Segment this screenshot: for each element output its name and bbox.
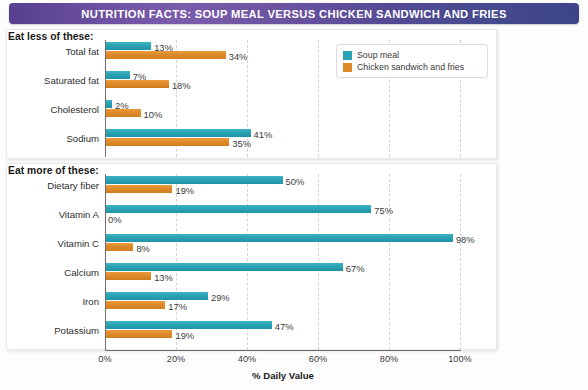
x-axis-tick-40pct: 40% (238, 354, 256, 364)
x-axis-title: % Daily Value (105, 370, 461, 381)
y-axis-line-eat-more (105, 174, 106, 350)
category-label: Cholesterol (50, 105, 99, 115)
bar-chicken-sandwich (105, 138, 229, 146)
chart-row: Dietary fiber50%19% (105, 176, 460, 205)
y-axis-line-eat-less (105, 40, 106, 157)
bar-value-label: 29% (211, 293, 230, 302)
chart-row: Sodium41%35% (105, 129, 460, 158)
bar-soup-meal (105, 292, 208, 300)
category-label: Dietary fiber (47, 181, 99, 191)
x-axis-tick-60pct: 60% (309, 354, 327, 364)
nutrition-facts-chart: NUTRITION FACTS: SOUP MEAL VERSUS CHICKE… (0, 0, 588, 390)
bar-soup-meal (105, 100, 112, 108)
bar-value-label: 67% (346, 264, 365, 273)
bar-value-label: 41% (254, 130, 273, 139)
bar-value-label: 13% (154, 273, 173, 282)
category-label: Total fat (65, 47, 99, 57)
legend-swatch-orange (343, 63, 352, 72)
x-axis-line (105, 350, 461, 351)
chart-row: Calcium67%13% (105, 263, 460, 292)
bar-soup-meal (105, 71, 130, 79)
bar-chicken-sandwich (105, 301, 165, 309)
category-label: Vitamin C (58, 239, 99, 249)
bar-value-label: 10% (144, 110, 163, 119)
chart-row: Vitamin A75%0% (105, 205, 460, 234)
chart-row: Cholesterol2%10% (105, 100, 460, 129)
gridline-100 (460, 174, 461, 350)
x-axis-tick-80pct: 80% (380, 354, 398, 364)
bar-value-label: 17% (168, 302, 187, 311)
chart-row: Vitamin C98%8% (105, 234, 460, 263)
bar-value-label: 47% (275, 322, 294, 331)
bar-value-label: 98% (456, 235, 475, 244)
bar-chicken-sandwich (105, 80, 169, 88)
chart-row: Iron29%17% (105, 292, 460, 321)
chart-row: Potassium47%19% (105, 321, 460, 350)
bar-value-label: 8% (136, 244, 150, 253)
bar-chicken-sandwich (105, 185, 172, 193)
bar-chicken-sandwich (105, 243, 133, 251)
bar-soup-meal (105, 263, 343, 271)
bar-chicken-sandwich (105, 109, 141, 117)
bar-chicken-sandwich (105, 330, 172, 338)
x-axis-tick-0pct: 0% (98, 354, 111, 364)
legend-item-2: Chicken sandwich and fries (343, 61, 481, 73)
chart-legend: Soup mealChicken sandwich and fries (336, 44, 488, 78)
bar-value-label: 50% (286, 177, 305, 186)
bar-soup-meal (105, 234, 453, 242)
category-label: Potassium (54, 326, 99, 336)
bar-value-label: 35% (232, 139, 251, 148)
legend-label: Soup meal (357, 50, 399, 60)
bar-chicken-sandwich (105, 51, 226, 59)
bar-soup-meal (105, 321, 272, 329)
bar-soup-meal (105, 42, 151, 50)
bar-soup-meal (105, 205, 371, 213)
bar-value-label: 19% (175, 331, 194, 340)
bar-value-label: 19% (175, 186, 194, 195)
legend-swatch-teal (343, 51, 352, 60)
category-label: Saturated fat (44, 76, 99, 86)
bar-value-label: 75% (374, 206, 393, 215)
bar-value-label: 0% (108, 215, 122, 224)
bar-value-label: 18% (172, 81, 191, 90)
bar-soup-meal (105, 129, 251, 137)
section-heading-eat-less: Eat less of these: (8, 31, 94, 42)
x-axis-tick-20pct: 20% (167, 354, 185, 364)
section-heading-eat-more: Eat more of these: (8, 165, 99, 176)
category-label: Calcium (64, 268, 99, 278)
x-axis-tick-100pct: 100% (448, 354, 472, 364)
legend-item-1: Soup meal (343, 49, 481, 61)
plot-area-eat-more: Dietary fiber50%19%Vitamin A75%0%Vitamin… (105, 174, 460, 350)
bar-chicken-sandwich (105, 272, 151, 280)
chart-title-bar: NUTRITION FACTS: SOUP MEAL VERSUS CHICKE… (9, 3, 579, 24)
category-label: Iron (82, 297, 99, 307)
legend-label: Chicken sandwich and fries (357, 62, 464, 72)
category-label: Sodium (66, 134, 99, 144)
bar-value-label: 34% (229, 52, 248, 61)
category-label: Vitamin A (59, 210, 99, 220)
page-title: NUTRITION FACTS: SOUP MEAL VERSUS CHICKE… (81, 8, 506, 20)
bar-soup-meal (105, 176, 283, 184)
